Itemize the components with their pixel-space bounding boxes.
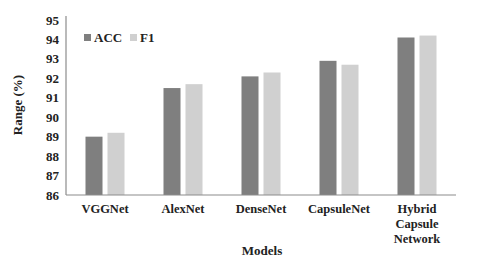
bars — [86, 36, 437, 195]
legend-item-acc: ACC — [84, 30, 122, 45]
x-axis-title: Models — [242, 243, 282, 258]
bar-f1 — [420, 36, 437, 195]
y-tick-label: 87 — [46, 168, 60, 183]
bar-group — [398, 36, 437, 195]
y-tick-label: 93 — [46, 51, 60, 66]
y-tick-label: 91 — [46, 90, 59, 105]
bar-acc — [398, 38, 415, 196]
y-tick-label: 86 — [46, 188, 60, 203]
x-tick-label: Hybrid — [398, 202, 437, 216]
x-tick-label: Capsule — [395, 217, 439, 231]
y-axis-title: Range (%) — [10, 75, 25, 135]
bar-f1 — [342, 65, 359, 195]
legend-swatch — [130, 34, 137, 41]
x-tick-label: VGGNet — [81, 202, 129, 216]
legend-label: F1 — [140, 30, 154, 45]
x-axis: VGGNetAlexNetDenseNetCapsuleNetHybridCap… — [66, 195, 456, 246]
y-tick-label: 88 — [46, 149, 60, 164]
legend-label: ACC — [94, 30, 122, 45]
bar-acc — [320, 61, 337, 195]
y-tick-label: 90 — [46, 110, 59, 125]
bar-f1 — [186, 84, 203, 195]
y-tick-label: 95 — [46, 13, 60, 28]
bar-acc — [164, 88, 181, 195]
bar-acc — [242, 76, 259, 195]
y-axis: 86878889909192939495 — [46, 13, 66, 203]
bar-group — [242, 73, 281, 196]
bar-group — [320, 61, 359, 195]
legend: ACCF1 — [84, 30, 154, 45]
bar-f1 — [264, 73, 281, 196]
legend-swatch — [84, 34, 91, 41]
bar-acc — [86, 137, 103, 195]
x-tick-label: DenseNet — [236, 202, 288, 216]
y-tick-label: 89 — [46, 129, 60, 144]
bar-f1 — [108, 133, 125, 195]
legend-item-f1: F1 — [130, 30, 154, 45]
y-tick-label: 92 — [46, 71, 59, 86]
bar-group — [164, 84, 203, 195]
x-tick-label: AlexNet — [161, 202, 205, 216]
y-tick-label: 94 — [46, 32, 60, 47]
x-tick-label: Network — [394, 232, 441, 246]
bar-group — [86, 133, 125, 195]
x-tick-label: CapsuleNet — [308, 202, 371, 216]
bar-chart: 86878889909192939495 VGGNetAlexNetDenseN… — [0, 0, 478, 262]
